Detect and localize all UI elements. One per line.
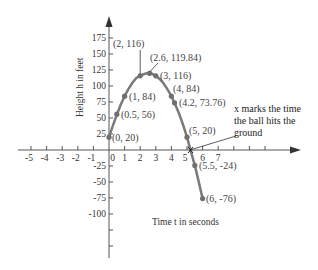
- y-tick-label: 175: [92, 33, 107, 43]
- point-label: (6, -76): [206, 193, 236, 205]
- data-point: [169, 94, 174, 99]
- point-label: (5, 20): [189, 125, 216, 137]
- x-tick-label: 1: [122, 153, 127, 163]
- point-label: (0.5, 56): [121, 109, 155, 121]
- y-tick-label: 100: [92, 81, 107, 91]
- y-tick-label: 75: [97, 97, 107, 107]
- data-point: [106, 135, 111, 140]
- x-tick-label: 4: [169, 153, 174, 163]
- y-tick-label: 150: [92, 49, 107, 59]
- y-axis-arrow-icon: [106, 16, 113, 27]
- annotation-line: the ball hits the: [234, 115, 296, 126]
- x-tick-label: -4: [41, 153, 49, 163]
- y-tick-label: -100: [89, 209, 107, 219]
- point-label: (4, 84): [173, 83, 200, 95]
- point-label: (5.5, -24): [199, 160, 237, 172]
- y-tick-label: -50: [93, 177, 106, 187]
- point-label: (0, 20): [112, 132, 139, 144]
- y-tick-label: -25: [93, 161, 106, 171]
- point-label: (1, 84): [129, 91, 156, 103]
- y-tick-label: 50: [97, 113, 107, 123]
- x-tick-label: 0: [110, 153, 115, 163]
- annotation: x marks the time the ball hits the groun…: [234, 103, 301, 138]
- y-tick-label: 25: [97, 129, 107, 139]
- y-tick-label: -75: [93, 193, 106, 203]
- point-label: (3, 116): [160, 70, 191, 82]
- y-tick-label: 125: [92, 65, 107, 75]
- point-label: (2, 116): [113, 38, 144, 50]
- annotation-line: ground: [234, 127, 262, 138]
- x-axis-title: Time t in seconds: [152, 217, 219, 227]
- point-label: (2.6, 119.84): [150, 52, 201, 64]
- point-label: (4.2, 73.76): [179, 97, 226, 109]
- data-point: [200, 196, 205, 201]
- data-point: [122, 94, 127, 99]
- annotation-line: x marks the time: [234, 103, 301, 114]
- x-tick-label: -3: [56, 153, 64, 163]
- x-tick-label: -5: [25, 153, 33, 163]
- x-ticks: [31, 146, 265, 150]
- y-tick-labels: 25 50 75 100 125 150 175 -25 -50 -75 -10…: [89, 33, 107, 219]
- data-point: [153, 73, 158, 78]
- y-axis-title: Height h in feet: [75, 57, 85, 117]
- x-tick-label: 5: [183, 153, 188, 163]
- data-point: [172, 100, 177, 105]
- data-point: [192, 163, 197, 168]
- x-tick-label: 3: [153, 153, 158, 163]
- data-point: [114, 112, 119, 117]
- x-tick-label: 2: [138, 153, 143, 163]
- x-axis-arrow-icon: [290, 147, 301, 154]
- point-labels: (0, 20) (0.5, 56) (1, 84) (2, 116) (2.6,…: [112, 38, 237, 205]
- x-tick-label: -2: [72, 153, 80, 163]
- chart-canvas: -5 -4 -3 -2 -1 0 1 2 3 4 5 6 7 25 50 75 …: [0, 0, 318, 270]
